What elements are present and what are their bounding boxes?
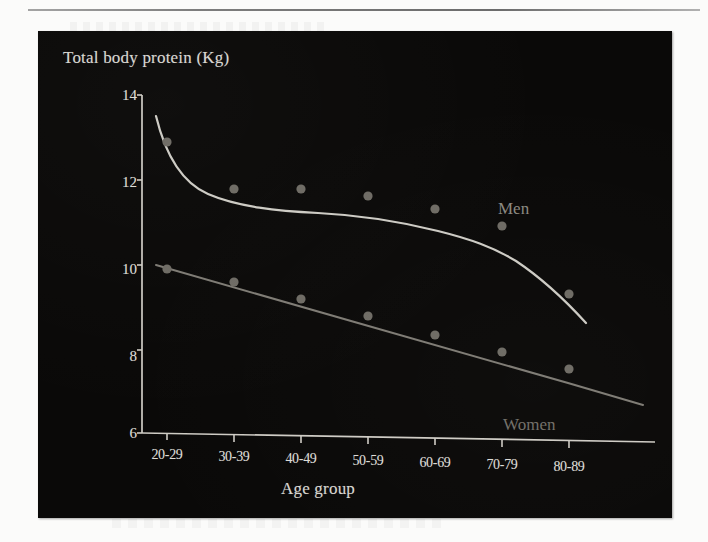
chart-figure-panel: Total body protein (Kg) Age group 14 12 … xyxy=(38,31,672,518)
scanned-page: Total body protein (Kg) Age group 14 12 … xyxy=(0,0,708,542)
page-top-rule xyxy=(28,9,700,11)
x-axis-line xyxy=(142,433,655,442)
page-bleed-through-bottom xyxy=(112,519,442,528)
series-curve-women xyxy=(156,265,643,405)
chart-plot-area xyxy=(38,31,672,518)
series-markers-women xyxy=(162,264,573,373)
series-curve-men xyxy=(156,116,586,323)
